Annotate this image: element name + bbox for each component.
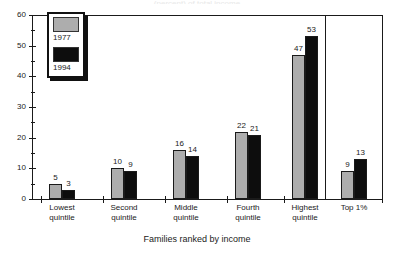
x-category-label-line: Lowest <box>30 203 94 213</box>
black-swatch-icon <box>53 47 79 62</box>
bar-value-label: 9 <box>119 161 143 169</box>
bar-1977-3 <box>235 132 248 199</box>
bar-1994-5 <box>354 159 367 199</box>
bar-value-label: 3 <box>57 180 81 188</box>
x-category-label: Fourthquintile <box>216 203 280 223</box>
x-category-label-line: Top 1% <box>322 203 386 213</box>
x-category-label: Lowestquintile <box>30 203 94 223</box>
x-category-label: Secondquintile <box>92 203 156 223</box>
legend-label-1994: 1994 <box>53 63 81 72</box>
bar-1994-2 <box>186 156 199 199</box>
bar-chart-figure: (percent) of total income 0102030405060 … <box>0 0 394 254</box>
legend-entry-1977: 1977 <box>53 17 81 42</box>
x-category-label-line: Fourth <box>216 203 280 213</box>
bar-1977-5 <box>341 171 354 199</box>
x-category-label-line: Second <box>92 203 156 213</box>
bar-1977-2 <box>173 150 186 199</box>
bar-value-label: 21 <box>243 125 267 133</box>
x-category-label-line: quintile <box>273 213 337 223</box>
x-category-label-line: quintile <box>92 213 156 223</box>
x-category-label-line: quintile <box>30 213 94 223</box>
x-category-label-line: quintile <box>216 213 280 223</box>
legend-entry-1994: 1994 <box>53 47 81 72</box>
bar-value-label: 53 <box>300 26 324 34</box>
bar-value-label: 14 <box>181 146 205 154</box>
x-axis-title: Families ranked by income <box>0 234 394 244</box>
bar-1977-4 <box>292 55 305 199</box>
bar-1994-3 <box>248 135 261 199</box>
gray-swatch-icon <box>53 17 79 32</box>
bar-value-label: 13 <box>349 149 373 157</box>
x-category-label-line: Middle <box>154 203 218 213</box>
bar-1994-1 <box>124 171 137 199</box>
x-category-label-line: quintile <box>154 213 218 223</box>
bar-1994-4 <box>305 36 318 199</box>
x-category-label: Middlequintile <box>154 203 218 223</box>
legend-box: 1977 1994 <box>47 12 85 78</box>
x-category-label: Top 1% <box>322 203 386 213</box>
bar-1977-1 <box>111 168 124 199</box>
bar-1994-0 <box>62 190 75 199</box>
legend-label-1977: 1977 <box>53 33 81 42</box>
